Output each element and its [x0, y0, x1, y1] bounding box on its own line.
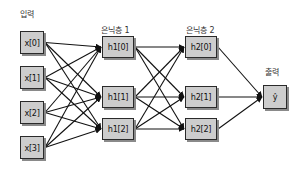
output-layer-label: 출력 [265, 66, 279, 77]
input-node-2: x[2] [20, 101, 44, 124]
input-node-3: x[3] [20, 136, 44, 159]
hidden2-node-0: h2[0] [185, 36, 217, 58]
hidden1-node-0: h1[0] [102, 36, 134, 58]
input-layer-label: 입력 [20, 8, 34, 19]
hidden2-node-2: h2[2] [185, 118, 217, 140]
input-node-1: x[1] [20, 66, 44, 89]
output-node: ŷ [263, 85, 287, 109]
hidden-layer-1-label: 은닉층 1 [101, 24, 130, 35]
input-node-0: x[0] [20, 31, 44, 54]
hidden2-node-1: h2[1] [185, 86, 217, 108]
hidden1-node-1: h1[1] [102, 86, 134, 108]
hidden1-node-2: h1[2] [102, 118, 134, 140]
hidden-layer-2-label: 은닉층 2 [186, 24, 215, 35]
network-edges [0, 0, 303, 171]
